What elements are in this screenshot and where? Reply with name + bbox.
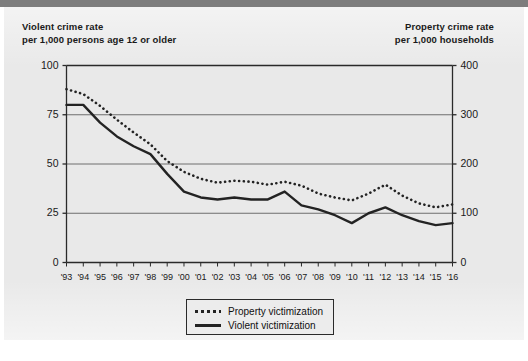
legend-label-violent: Violent victimization — [228, 320, 316, 331]
y-left-tick-25: 25 — [47, 206, 59, 218]
y-right-tick-200: 200 — [461, 157, 479, 169]
legend-item-property: Property victimization — [195, 304, 323, 318]
chart-legend: Property victimization Violent victimiza… — [186, 299, 334, 335]
dotted-line-icon — [195, 305, 221, 317]
legend-label-property: Property victimization — [228, 306, 323, 317]
y-right-tick-100: 100 — [461, 206, 479, 218]
series-line-violent-victimization — [67, 105, 453, 225]
y-left-tick-75: 75 — [47, 108, 59, 120]
data-series-layer — [67, 89, 453, 225]
y-left-tick-50: 50 — [47, 157, 59, 169]
solid-line-icon — [195, 319, 221, 331]
y-right-tick-0: 0 — [461, 256, 467, 268]
y-left-tick-100: 100 — [41, 59, 59, 71]
legend-item-violent: Violent victimization — [195, 318, 316, 332]
x-tick-16: '16 — [442, 272, 464, 282]
chart-figure: Violent crime rate per 1,000 persons age… — [0, 0, 528, 361]
y-left-tick-0: 0 — [53, 256, 59, 268]
gridlines — [67, 66, 453, 263]
series-line-property-victimization — [67, 89, 453, 207]
y-right-tick-300: 300 — [461, 108, 479, 120]
y-right-tick-400: 400 — [461, 59, 479, 71]
